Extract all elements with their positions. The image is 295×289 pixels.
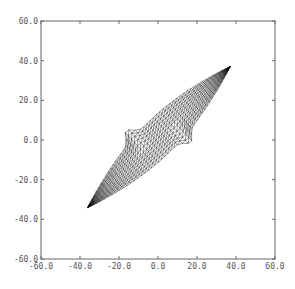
y-tick-label: 40.0 [19,57,38,66]
y-tick-label: -20.0 [14,176,38,185]
axis-ticks [41,21,275,259]
y-tick-label: 0.0 [24,136,39,145]
x-tick-label: 60.0 [265,262,284,271]
y-tick-label: 60.0 [19,17,38,26]
x-tick-label: -40.0 [68,262,92,271]
x-tick-label: -20.0 [107,262,131,271]
x-axis-tick-labels: -60.0-40.0-20.00.020.040.060.0 [29,262,285,271]
x-tick-label: 40.0 [226,262,245,271]
mesh-plot: -60.0-40.0-20.00.020.040.060.0 60.040.02… [0,0,295,289]
y-tick-label: -40.0 [14,215,38,224]
x-tick-label: 20.0 [187,262,206,271]
y-tick-label: 20.0 [19,96,38,105]
y-tick-label: -60.0 [14,255,38,264]
x-tick-label: 0.0 [151,262,166,271]
plot-frame [41,21,275,259]
wireframe-mesh [88,67,230,208]
y-axis-tick-labels: 60.040.020.00.0-20.0-40.0-60.0 [14,17,38,264]
mesh-lines [88,67,230,208]
